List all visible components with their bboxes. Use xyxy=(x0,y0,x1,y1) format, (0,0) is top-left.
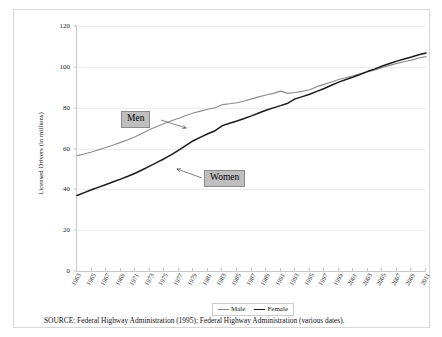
x-tick-mark xyxy=(396,268,397,271)
x-tick-label: 2003 xyxy=(360,272,372,287)
x-tick-label: 1977 xyxy=(171,272,183,287)
chart-legend: MaleFemale xyxy=(212,303,294,316)
x-tick-label: 2011 xyxy=(419,272,431,286)
x-tick-mark xyxy=(236,268,237,271)
x-tick-label: 2007 xyxy=(390,272,402,287)
x-tick-mark xyxy=(178,268,179,271)
x-tick-mark xyxy=(163,268,164,271)
x-tick-mark xyxy=(294,268,295,271)
x-tick-mark xyxy=(207,268,208,271)
x-tick-label: 1987 xyxy=(244,272,256,287)
x-tick-mark xyxy=(120,268,121,271)
x-tick-label: 1965 xyxy=(84,272,96,287)
x-tick-mark xyxy=(309,268,310,271)
figure-page: Licensed Drivers (in millions) 020406080… xyxy=(0,0,442,337)
x-tick-mark xyxy=(280,268,281,271)
x-tick-mark xyxy=(91,268,92,271)
x-tick-label: 1969 xyxy=(113,272,125,287)
y-tick-label: 40 xyxy=(63,185,70,193)
x-tick-mark xyxy=(76,268,77,271)
plot-area xyxy=(76,26,426,272)
x-tick-mark xyxy=(338,268,339,271)
x-tick-mark xyxy=(265,268,266,271)
x-tick-label: 1967 xyxy=(99,272,111,287)
x-tick-mark xyxy=(367,268,368,271)
chart-container: Licensed Drivers (in millions) 020406080… xyxy=(36,18,432,318)
x-tick-mark xyxy=(381,268,382,271)
x-tick-mark xyxy=(425,268,426,271)
x-tick-mark xyxy=(323,268,324,271)
x-tick-label: 1995 xyxy=(302,272,314,287)
x-tick-label: 1979 xyxy=(186,272,198,287)
x-tick-mark xyxy=(352,268,353,271)
y-tick-label: 120 xyxy=(60,22,71,30)
y-tick-label: 0 xyxy=(67,267,71,275)
y-tick-label: 20 xyxy=(63,226,70,234)
x-tick-label: 1999 xyxy=(331,272,343,287)
plot-wrapper: 020406080100120 xyxy=(54,26,426,272)
legend-label: Female xyxy=(267,305,288,313)
annotation-women: Women xyxy=(204,170,245,187)
x-tick-label: 1993 xyxy=(288,272,300,287)
legend-swatch xyxy=(218,309,229,310)
x-tick-mark xyxy=(149,268,150,271)
x-tick-label: 2001 xyxy=(346,272,358,287)
x-tick-label: 1981 xyxy=(200,272,212,287)
y-axis-label-text: Licensed Drivers (in millions) xyxy=(37,112,44,195)
x-tick-label: 1997 xyxy=(317,272,329,287)
y-axis-label: Licensed Drivers (in millions) xyxy=(32,58,48,248)
legend-entry: Female xyxy=(254,305,288,313)
x-tick-mark xyxy=(410,268,411,271)
x-tick-label: 1971 xyxy=(128,272,140,287)
x-tick-label: 2009 xyxy=(404,272,416,287)
legend-entry: Male xyxy=(218,305,245,313)
series-paths xyxy=(77,26,426,271)
x-tick-label: 1985 xyxy=(230,272,242,287)
y-tick-label: 100 xyxy=(60,63,71,71)
annotation-men: Men xyxy=(121,111,150,128)
x-tick-label: 1991 xyxy=(273,272,285,287)
line-male xyxy=(77,57,426,156)
x-tick-mark xyxy=(134,268,135,271)
y-tick-label: 80 xyxy=(63,104,70,112)
legend-label: Male xyxy=(231,305,245,313)
x-tick-mark xyxy=(221,268,222,271)
source-note: SOURCE: Federal Highway Administration (… xyxy=(44,316,345,325)
x-tick-mark xyxy=(105,268,106,271)
x-axis-ticks: 1963196519671969197119731975197719791981… xyxy=(76,272,426,302)
x-tick-label: 1983 xyxy=(215,272,227,287)
x-tick-label: 1973 xyxy=(142,272,154,287)
x-tick-mark xyxy=(251,268,252,271)
y-tick-label: 60 xyxy=(63,145,70,153)
x-tick-label: 1989 xyxy=(259,272,271,287)
x-tick-label: 1963 xyxy=(70,272,82,287)
x-tick-label: 1975 xyxy=(157,272,169,287)
x-tick-mark xyxy=(192,268,193,271)
x-tick-label: 2005 xyxy=(375,272,387,287)
figure-frame: Licensed Drivers (in millions) 020406080… xyxy=(13,9,430,328)
legend-swatch xyxy=(254,309,265,310)
